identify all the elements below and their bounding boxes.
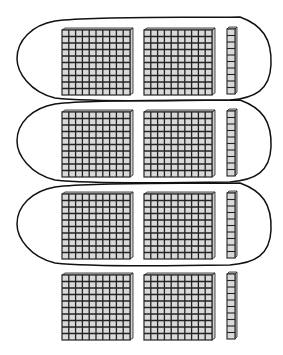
hundred-flat [144, 273, 215, 340]
ten-rod [227, 272, 237, 339]
ten-rod [227, 27, 237, 94]
hundred-flat [62, 110, 133, 177]
ten-rod [227, 109, 237, 176]
ten-rod [227, 191, 237, 258]
hundred-flat [62, 192, 133, 259]
hundred-flat [144, 28, 215, 95]
base-ten-diagram [0, 0, 283, 355]
hundred-flat [144, 110, 215, 177]
hundred-flat [62, 28, 133, 95]
hundred-flat [144, 192, 215, 259]
hundred-flat [62, 273, 133, 340]
